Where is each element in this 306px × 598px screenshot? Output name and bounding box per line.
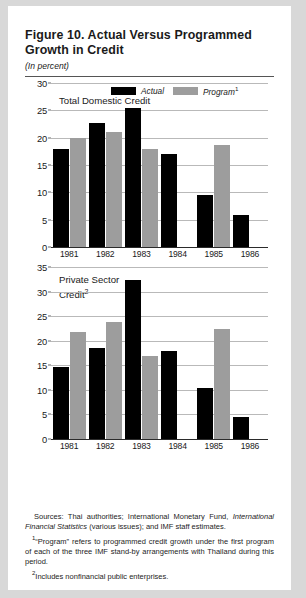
gridline bbox=[51, 439, 268, 440]
x-axis-tick-label: 1986 bbox=[232, 249, 268, 263]
bar-actual-1982 bbox=[89, 123, 105, 247]
bar-actual-1983 bbox=[125, 280, 141, 439]
xaxis-top: 198119821983198419851986 bbox=[51, 249, 268, 263]
plot-area-top: Total Domestic Credit 051015202530 bbox=[51, 83, 268, 247]
y-axis-tick-label: 10 bbox=[37, 384, 47, 395]
bar-group bbox=[87, 267, 123, 439]
bar-group bbox=[51, 267, 87, 439]
bar-group bbox=[232, 83, 268, 247]
bar-program-1983 bbox=[142, 149, 158, 247]
bar-actual-1986 bbox=[233, 417, 249, 439]
bar-actual-1984 bbox=[161, 351, 177, 439]
x-axis-tick-label: 1984 bbox=[160, 441, 196, 455]
x-axis-tick-label: 1981 bbox=[51, 441, 87, 455]
y-axis-tick-label: 30 bbox=[37, 78, 47, 89]
bar-group bbox=[51, 83, 87, 247]
bar-program-1983 bbox=[142, 356, 158, 439]
x-axis-tick-label: 1985 bbox=[196, 441, 232, 455]
y-axis-tick-label: 15 bbox=[37, 160, 47, 171]
bar-group bbox=[196, 83, 232, 247]
figure-title: Figure 10. Actual Versus Programmed Grow… bbox=[25, 6, 274, 58]
y-axis-tick-label: 20 bbox=[37, 132, 47, 143]
chart-private-sector-credit: Private SectorCredit2 05101520253035 198… bbox=[25, 267, 274, 457]
header-divider bbox=[25, 76, 274, 77]
bar-actual-1984 bbox=[161, 154, 177, 247]
xaxis-bottom: 198119821983198419851986 bbox=[51, 441, 268, 455]
bar-group bbox=[196, 267, 232, 439]
bars-top bbox=[51, 83, 268, 247]
y-axis-tick-label: 25 bbox=[37, 105, 47, 116]
footnote-2: 2Includes nonfinancial public enterprise… bbox=[25, 568, 274, 582]
y-axis-tick-label: 20 bbox=[37, 335, 47, 346]
bar-actual-1981 bbox=[53, 367, 69, 439]
y-axis-tick-label: 15 bbox=[37, 360, 47, 371]
bar-actual-1985 bbox=[197, 388, 213, 439]
y-axis-tick-label: 5 bbox=[42, 214, 47, 225]
figure-subtitle: (In percent) bbox=[25, 61, 274, 71]
footnote-1: 1“Program” refers to programmed credit g… bbox=[25, 533, 274, 567]
chart-total-domestic-credit: Actual Program1 Total Domestic Credit 05… bbox=[25, 83, 274, 265]
bar-actual-1981 bbox=[53, 149, 69, 247]
bar-group bbox=[87, 83, 123, 247]
y-axis-tick-label: 10 bbox=[37, 187, 47, 198]
gridline bbox=[51, 247, 268, 248]
x-axis-tick-label: 1981 bbox=[51, 249, 87, 263]
x-axis-tick-label: 1983 bbox=[123, 249, 159, 263]
bar-program-1985 bbox=[214, 329, 230, 439]
bar-program-1982 bbox=[106, 322, 122, 439]
x-axis-tick-label: 1982 bbox=[87, 249, 123, 263]
x-axis-tick-label: 1983 bbox=[123, 441, 159, 455]
bar-program-1981 bbox=[70, 332, 86, 439]
x-axis-tick-label: 1985 bbox=[196, 249, 232, 263]
bar-actual-1983 bbox=[125, 108, 141, 247]
bars-bottom bbox=[51, 267, 268, 439]
y-axis-tick-label: 5 bbox=[42, 409, 47, 420]
bar-program-1985 bbox=[214, 145, 230, 247]
bar-actual-1986 bbox=[233, 215, 249, 247]
y-axis-tick-label: 35 bbox=[37, 262, 47, 273]
x-axis-tick-label: 1982 bbox=[87, 441, 123, 455]
x-axis-tick-label: 1986 bbox=[232, 441, 268, 455]
sources-note: Sources: Thai authorities; International… bbox=[25, 512, 274, 532]
bar-program-1981 bbox=[70, 138, 86, 247]
bar-group bbox=[123, 267, 159, 439]
bar-group bbox=[160, 83, 196, 247]
bar-group bbox=[123, 83, 159, 247]
bar-group bbox=[160, 267, 196, 439]
y-axis-tick-label: 0 bbox=[42, 242, 47, 253]
plot-area-bottom: Private SectorCredit2 05101520253035 bbox=[51, 267, 268, 439]
figure-page: Figure 10. Actual Versus Programmed Grow… bbox=[8, 6, 291, 590]
bar-group bbox=[232, 267, 268, 439]
figure-notes: Sources: Thai authorities; International… bbox=[25, 512, 274, 582]
bar-actual-1982 bbox=[89, 348, 105, 439]
y-axis-tick-label: 0 bbox=[42, 434, 47, 445]
y-axis-tick-label: 30 bbox=[37, 286, 47, 297]
y-axis-tick-label: 25 bbox=[37, 311, 47, 322]
bar-actual-1985 bbox=[197, 195, 213, 247]
bar-program-1982 bbox=[106, 132, 122, 247]
x-axis-tick-label: 1984 bbox=[160, 249, 196, 263]
